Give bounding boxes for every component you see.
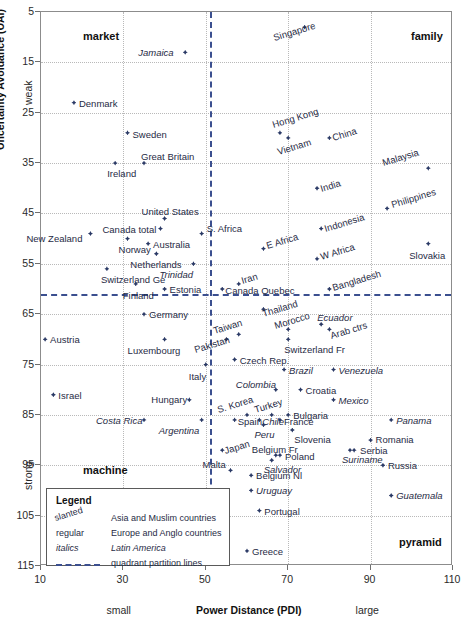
point-label: Pakistan [194, 335, 232, 355]
point-label: E Africa [266, 232, 300, 251]
point-label: Argentina [159, 426, 200, 436]
point-label: Australia [153, 240, 190, 250]
y-tick-label: 55 [8, 257, 34, 269]
point-label: Ireland [107, 169, 136, 179]
x-axis-large-label: large [356, 604, 379, 616]
point-label: Switzerland Ge [101, 275, 165, 285]
point-label: S. Africa [207, 224, 242, 234]
quadrant-label-market: market [83, 30, 119, 42]
y-tick-label: 75 [8, 358, 34, 370]
plot-area: marketfamilymachinepyramid SingaporeJama… [40, 11, 452, 565]
data-point [286, 135, 291, 140]
data-point [154, 251, 159, 256]
y-tick-label: 85 [8, 408, 34, 420]
point-label: Slovakia [409, 251, 445, 261]
data-point [315, 256, 320, 261]
data-point [199, 231, 204, 236]
legend-value: Asia and Muslim countries [111, 513, 216, 523]
data-point [319, 226, 324, 231]
data-point [203, 362, 208, 367]
data-point [249, 473, 254, 478]
data-point [331, 367, 336, 372]
point-label: China [332, 126, 359, 142]
y-axis-weak-label: weak [22, 80, 34, 105]
point-label: Uruguay [256, 486, 292, 496]
data-point [286, 337, 291, 342]
x-tick-label: 90 [350, 573, 390, 585]
data-point [261, 246, 266, 251]
data-point [327, 287, 332, 292]
quadrant-label-pyramid: pyramid [399, 536, 442, 548]
y-tick-label: 25 [8, 106, 34, 118]
data-point [232, 357, 237, 362]
data-point [236, 332, 241, 337]
data-point [315, 186, 320, 191]
data-point [51, 392, 56, 397]
point-label: Italy [189, 372, 206, 382]
data-point [257, 508, 262, 513]
point-label: Luxembourg [128, 346, 181, 356]
x-tick-label: 70 [267, 573, 307, 585]
point-label: Singapore [272, 21, 316, 43]
point-label: Canada Quebec [225, 286, 294, 296]
point-label: New Zealand [26, 234, 82, 244]
point-label: Greece [252, 547, 283, 557]
data-point [162, 287, 167, 292]
data-point [88, 231, 93, 236]
gridline-horizontal [41, 113, 451, 114]
gridline-horizontal [41, 213, 451, 214]
point-label: Czech Rep. [240, 356, 290, 366]
data-point [348, 448, 353, 453]
point-label: Austria [50, 335, 80, 345]
data-point [282, 367, 287, 372]
point-label: Costa Rica [96, 416, 142, 426]
data-point [245, 548, 250, 553]
x-tick-label: 30 [102, 573, 142, 585]
point-label: Panama [396, 416, 431, 426]
data-point [191, 261, 196, 266]
legend-value: Europe and Anglo countries [111, 528, 222, 538]
point-label: Israel [58, 391, 81, 401]
point-label: Russia [388, 461, 417, 471]
point-label: Colombia [236, 380, 276, 390]
gridline-horizontal [41, 314, 451, 315]
y-tick-label: 105 [8, 509, 34, 521]
legend: Legend slantedAsia and Muslim countriesr… [46, 488, 230, 566]
x-tick-label: 50 [185, 573, 225, 585]
point-label: W Africa [319, 242, 356, 261]
point-label: Slovenia [294, 435, 330, 445]
point-label: Estonia [170, 285, 202, 295]
x-tick-mark [452, 565, 453, 570]
point-label: Hungary [151, 395, 187, 405]
data-point [125, 130, 130, 135]
x-tick-label: 110 [432, 573, 466, 585]
y-tick-label: 65 [8, 307, 34, 319]
data-point [426, 241, 431, 246]
y-axis-title: Uncertainty Avoidance (UAI) [0, 9, 6, 150]
data-point [125, 236, 130, 241]
point-label: Vietnam [276, 137, 312, 156]
point-label: Bangladesh [332, 269, 383, 293]
y-tick-label: 95 [8, 458, 34, 470]
data-point [389, 493, 394, 498]
point-label: Guatemala [396, 491, 442, 501]
point-label: France [284, 417, 314, 427]
data-point [43, 337, 48, 342]
y-tick-label: 35 [8, 156, 34, 168]
point-label: Brazil [289, 366, 313, 376]
data-point [277, 130, 282, 135]
data-point [298, 387, 303, 392]
legend-value: Latin America [111, 543, 166, 553]
point-label: Turkey [253, 397, 283, 414]
data-point [199, 417, 204, 422]
point-label: Indonesia [323, 212, 365, 233]
data-point [158, 226, 163, 231]
data-point [232, 417, 237, 422]
point-label: Philippines [390, 187, 437, 210]
point-label: Venezuela [339, 366, 384, 376]
point-label: Switzerland Fr [284, 345, 345, 355]
point-label: Jamaica [138, 48, 173, 58]
legend-key: regular [56, 528, 108, 538]
gridline-horizontal [41, 264, 451, 265]
point-label: Croatia [306, 386, 337, 396]
